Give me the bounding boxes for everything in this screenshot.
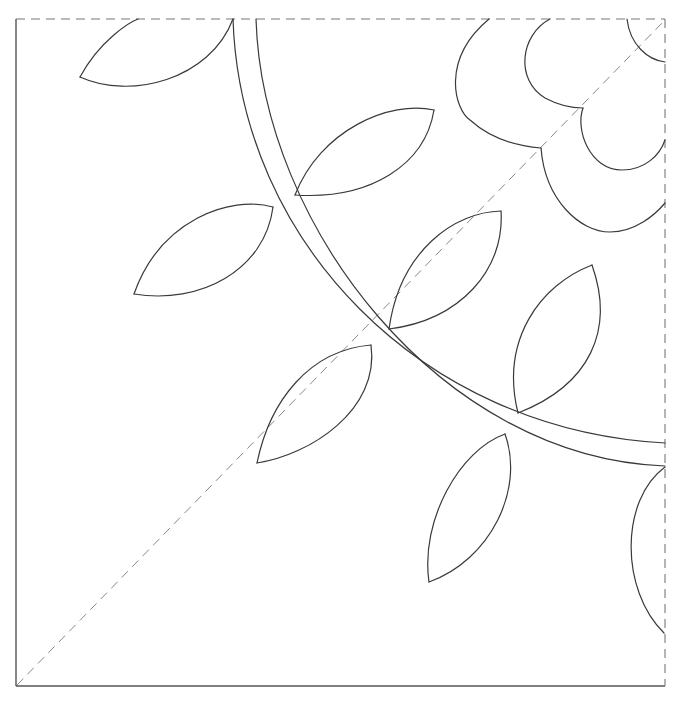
quilt-pattern-canvas xyxy=(0,0,685,708)
background xyxy=(0,0,685,708)
pattern-drawing xyxy=(0,0,685,708)
